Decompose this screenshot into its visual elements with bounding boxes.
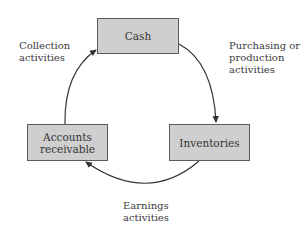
arrow-inventories-to-receivable bbox=[86, 161, 199, 183]
label-purchasing-activities: Purchasing or production activities bbox=[229, 40, 300, 76]
arrow-cash-to-inventories bbox=[179, 44, 216, 122]
operating-cycle-diagram: Cash Accounts receivable Inventories Pur… bbox=[0, 0, 304, 230]
label-earnings-activities: Earnings activities bbox=[123, 200, 169, 224]
node-cash-label: Cash bbox=[125, 30, 151, 42]
label-collection-activities: Collection activities bbox=[19, 40, 70, 64]
node-inventories: Inventories bbox=[169, 124, 250, 161]
node-accounts-receivable-label: Accounts receivable bbox=[40, 131, 95, 155]
node-cash: Cash bbox=[97, 18, 179, 54]
node-inventories-label: Inventories bbox=[179, 137, 239, 149]
node-accounts-receivable: Accounts receivable bbox=[27, 124, 108, 161]
